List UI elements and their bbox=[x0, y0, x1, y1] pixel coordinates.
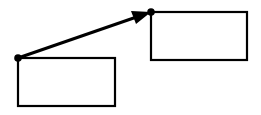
diagram-canvas bbox=[0, 0, 261, 115]
source-rectangle bbox=[18, 58, 115, 106]
end-dot-icon bbox=[147, 8, 155, 16]
connector-arrow-line bbox=[18, 17, 138, 59]
start-dot-icon bbox=[14, 54, 22, 62]
target-rectangle bbox=[151, 12, 247, 60]
